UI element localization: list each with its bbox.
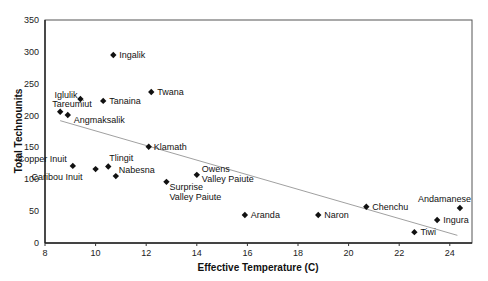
y-tick-label: 350 (24, 15, 39, 25)
point-label: Valley Paiute (202, 174, 254, 184)
point-label: Tareumiut (52, 99, 92, 109)
point-label: Naron (324, 210, 349, 220)
diamond-marker-icon (105, 163, 111, 169)
data-point: Klamath (146, 142, 187, 152)
point-label: Owens (202, 164, 231, 174)
x-tick-label: 24 (445, 248, 455, 258)
data-point: Tanaina (100, 96, 141, 106)
y-tick-label: 300 (24, 47, 39, 57)
point-label: Andamanese (418, 194, 471, 204)
data-point: Ingalik (110, 50, 146, 60)
data-point: Twana (148, 87, 184, 97)
point-label: Valley Paiute (169, 192, 221, 202)
point-label: Nabesna (119, 165, 155, 175)
point-label: Tlingit (109, 153, 134, 163)
data-point: Copper Inuit (18, 154, 76, 169)
point-label: Ingalik (119, 50, 146, 60)
x-axis-ticks: 81012141618202224 (42, 243, 454, 258)
diamond-marker-icon (110, 52, 116, 58)
point-label: Ingura (443, 215, 469, 225)
y-tick-label: 250 (24, 79, 39, 89)
x-tick-label: 14 (192, 248, 202, 258)
diamond-marker-icon (434, 217, 440, 223)
point-label: Copper Inuit (18, 154, 68, 164)
diamond-marker-icon (315, 212, 321, 218)
diamond-marker-icon (411, 229, 417, 235)
data-point: Ingura (434, 215, 469, 225)
diamond-marker-icon (57, 109, 63, 115)
x-tick-label: 16 (242, 248, 252, 258)
data-point: Nabesna (113, 165, 155, 179)
point-label: Tanaina (109, 96, 141, 106)
point-label: Twana (157, 87, 184, 97)
y-axis-title: Total Technounits (13, 88, 24, 173)
diamond-marker-icon (363, 203, 369, 209)
diamond-marker-icon (92, 166, 98, 172)
y-tick-label: 150 (24, 142, 39, 152)
data-points: IngalikTwanaIglulikTanainaTareumiutAngma… (18, 50, 471, 237)
point-label: Caribou Inuit (32, 172, 84, 182)
point-label: Angmaksalik (74, 115, 126, 125)
diamond-marker-icon (242, 212, 248, 218)
data-point: OwensValley Paiute (194, 164, 254, 184)
data-point: Tareumiut (52, 99, 92, 115)
x-tick-label: 10 (91, 248, 101, 258)
point-label: Chenchu (372, 202, 408, 212)
x-axis-title: Effective Temperature (C) (198, 262, 319, 273)
data-point: Aranda (242, 210, 280, 220)
y-tick-label: 50 (29, 206, 39, 216)
scatter-chart: 050100150200250300350 81012141618202224 … (0, 0, 488, 281)
data-point: Caribou Inuit (32, 166, 99, 182)
x-tick-label: 20 (344, 248, 354, 258)
point-label: Klamath (154, 142, 187, 152)
diamond-marker-icon (65, 112, 71, 118)
diamond-marker-icon (100, 98, 106, 104)
data-point: Angmaksalik (65, 112, 126, 125)
diamond-marker-icon (70, 163, 76, 169)
diamond-marker-icon (457, 205, 463, 211)
point-label: Tiwi (420, 227, 436, 237)
y-tick-label: 0 (34, 238, 39, 248)
point-label: Aranda (251, 210, 280, 220)
y-axis-ticks: 050100150200250300350 (24, 15, 39, 248)
diamond-marker-icon (148, 89, 154, 95)
x-tick-label: 18 (293, 248, 303, 258)
y-tick-label: 200 (24, 111, 39, 121)
diamond-marker-icon (194, 172, 200, 178)
x-tick-label: 22 (394, 248, 404, 258)
point-label: Surprise (169, 182, 203, 192)
diamond-marker-icon (146, 144, 152, 150)
x-tick-label: 8 (42, 248, 47, 258)
data-point: Andamanese (418, 194, 471, 211)
x-tick-label: 12 (141, 248, 151, 258)
data-point: Naron (315, 210, 349, 220)
data-point: Tiwi (411, 227, 436, 237)
